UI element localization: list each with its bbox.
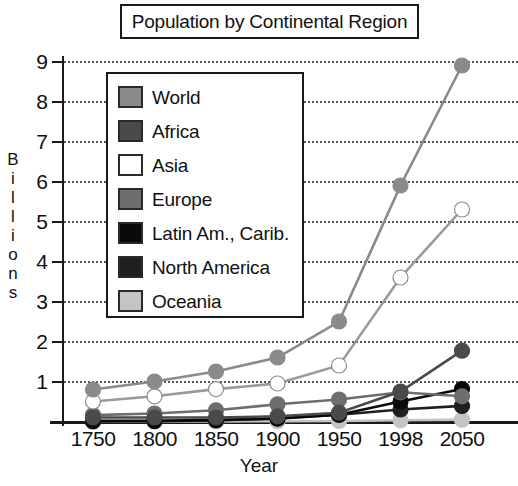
data-point — [393, 384, 408, 399]
chart-legend: WorldAfricaAsiaEuropeLatin Am., Carib.No… — [106, 72, 304, 318]
data-point — [455, 343, 470, 358]
legend-label: World — [152, 88, 200, 107]
legend-swatch — [118, 188, 143, 210]
legend-label: Africa — [152, 122, 199, 141]
legend-item: North America — [118, 250, 302, 284]
legend-item: Oceania — [118, 284, 302, 318]
population-line-chart: Population by Continental Region Billion… — [0, 0, 518, 486]
legend-item: Europe — [118, 182, 302, 216]
data-point — [455, 58, 470, 73]
legend-item: World — [118, 80, 302, 114]
data-point — [455, 202, 470, 217]
data-point — [147, 374, 162, 389]
legend-swatch — [118, 256, 143, 278]
legend-item: Asia — [118, 148, 302, 182]
legend-swatch — [118, 120, 143, 142]
data-point — [209, 364, 224, 379]
legend-swatch — [118, 154, 143, 176]
legend-item: Latin Am., Carib. — [118, 216, 302, 250]
data-point — [455, 389, 470, 404]
legend-swatch — [118, 290, 143, 312]
data-point — [270, 409, 285, 424]
data-point — [393, 270, 408, 285]
legend-label: Asia — [152, 156, 188, 175]
data-point — [86, 382, 101, 397]
legend-label: North America — [152, 258, 270, 277]
data-point — [147, 389, 162, 404]
legend-swatch — [118, 222, 143, 244]
data-point — [270, 376, 285, 391]
data-point — [209, 382, 224, 397]
data-point — [209, 410, 224, 425]
data-point — [393, 178, 408, 193]
legend-item: Africa — [118, 114, 302, 148]
data-point — [332, 314, 347, 329]
data-point — [332, 405, 347, 420]
legend-swatch — [118, 86, 143, 108]
legend-label: Oceania — [152, 292, 221, 311]
data-point — [86, 410, 101, 425]
legend-label: Latin Am., Carib. — [152, 224, 289, 243]
data-point — [270, 350, 285, 365]
data-point — [147, 410, 162, 425]
legend-label: Europe — [152, 190, 212, 209]
data-point — [455, 412, 470, 427]
data-point — [332, 358, 347, 373]
